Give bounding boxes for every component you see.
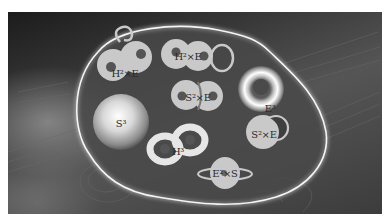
label-s2xe-center: S²×E bbox=[185, 92, 210, 103]
label-e2xs-bottom: E²×S bbox=[212, 168, 237, 179]
torus-shape bbox=[238, 66, 284, 112]
label-double-torus: H³ bbox=[172, 146, 184, 157]
figure-canvas: H²×E H²×E S²×E E³ S³ H³ S²×E E²×S bbox=[8, 12, 382, 214]
label-h2xe-top: H²×E bbox=[174, 51, 201, 62]
label-sphere: S³ bbox=[116, 118, 126, 129]
label-s2xe-right: S²×E bbox=[251, 129, 276, 140]
label-h2xe-left: H²×E bbox=[111, 68, 138, 79]
diagram-illustration bbox=[8, 12, 382, 214]
label-torus: E³ bbox=[265, 103, 276, 114]
